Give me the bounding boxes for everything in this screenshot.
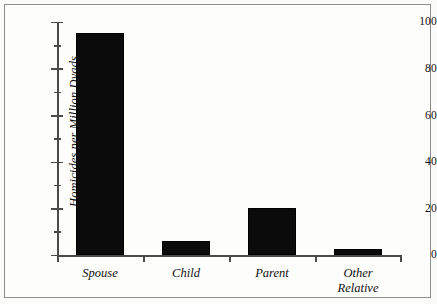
bar-chart-figure: 100 80 60 40 20 0 Homicides per Million … — [0, 0, 437, 304]
x-tick-1 — [143, 255, 145, 262]
y-tick-label-80: 80 — [393, 62, 437, 74]
x-tick-2 — [229, 255, 231, 262]
y-axis-title-wrap: Homicides per Million Dyads — [44, 36, 70, 236]
x-tick-label-spouse: Spouse — [57, 266, 143, 281]
x-tick-0 — [57, 255, 59, 262]
y-tick-label-40: 40 — [393, 155, 437, 167]
y-tick-label-20: 20 — [393, 202, 437, 214]
y-tick-label-60: 60 — [393, 109, 437, 121]
x-tick-label-parent-line1: Parent — [229, 266, 315, 281]
x-tick-label-other-relative: Other Relative — [315, 266, 401, 296]
bar-other-relative[interactable] — [334, 249, 382, 255]
x-tick-4 — [400, 255, 402, 262]
y-tick-label-100: 100 — [393, 15, 437, 27]
x-tick-label-child-line1: Child — [143, 266, 229, 281]
x-tick-label-other-relative-line2: Relative — [315, 281, 401, 296]
x-tick-label-child: Child — [143, 266, 229, 281]
x-tick-label-spouse-line1: Spouse — [57, 266, 143, 281]
bar-parent[interactable] — [248, 208, 296, 255]
bar-child[interactable] — [162, 241, 210, 255]
x-tick-3 — [315, 255, 317, 262]
x-tick-label-parent: Parent — [229, 266, 315, 281]
y-tick-100 — [51, 22, 63, 24]
plot-area: 100 80 60 40 20 0 Homicides per Million … — [0, 0, 437, 304]
x-tick-label-other-relative-line1: Other — [315, 266, 401, 281]
bar-spouse[interactable] — [76, 33, 124, 255]
